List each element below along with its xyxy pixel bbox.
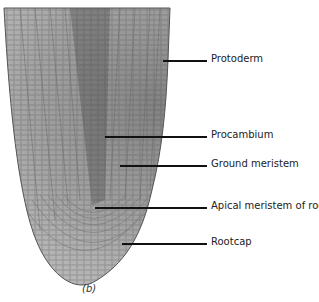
label-ground-meristem: Ground meristem xyxy=(211,158,299,169)
rootcap-leader xyxy=(122,243,207,245)
label-apical-meristem: Apical meristem of root xyxy=(211,200,319,211)
label-procambium: Procambium xyxy=(211,129,273,140)
label-protoderm: Protoderm xyxy=(211,53,263,64)
root-tip-diagram: Protoderm Procambium Ground meristem Api… xyxy=(0,0,319,302)
root-tip-micrograph xyxy=(0,0,319,302)
apical-meristem-leader xyxy=(95,207,207,209)
ground-meristem-leader xyxy=(120,165,207,167)
protoderm-leader xyxy=(163,60,207,62)
procambium-leader xyxy=(105,136,207,138)
figure-caption: (b) xyxy=(82,283,96,294)
label-rootcap: Rootcap xyxy=(211,236,252,247)
